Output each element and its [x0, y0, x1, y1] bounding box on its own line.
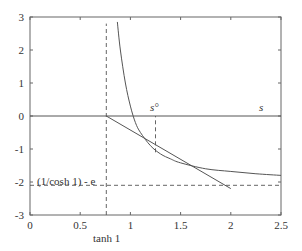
y-tick-label: -1 — [15, 143, 24, 155]
y-tick-label: 3 — [19, 11, 25, 23]
curve-line — [117, 22, 281, 175]
x-tick-label: 1.5 — [174, 219, 188, 231]
y-tick-label: -2 — [15, 176, 24, 188]
s-circ-label: s° — [150, 101, 159, 113]
y-tick-label: 2 — [19, 44, 25, 56]
tangent-line-line — [106, 116, 230, 189]
x-tick-label: 0.5 — [73, 219, 87, 231]
axis-ticks: 00.511.522.53210-1-2-3 — [15, 11, 289, 231]
y-annotation-label: (1/cosh 1) - e — [37, 175, 95, 188]
y-tick-label: 0 — [19, 110, 25, 122]
x-tick-label: 2 — [228, 219, 234, 231]
x-tick-label: 2.5 — [274, 219, 288, 231]
y-tick-label: -3 — [15, 209, 25, 221]
y-tick-label: 1 — [19, 77, 25, 89]
chart: 00.511.522.53210-1-2-3 s° s (1/cosh 1) -… — [0, 0, 302, 251]
x-tick-label: 1 — [128, 219, 134, 231]
s-label: s — [259, 101, 263, 113]
x-annotation-label: tanh 1 — [93, 232, 120, 244]
x-tick-label: 0 — [27, 219, 33, 231]
